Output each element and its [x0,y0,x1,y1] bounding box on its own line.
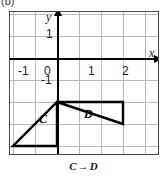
arrow-icon: → [77,160,90,172]
shapes-layer [10,12,159,155]
triangle-c [13,102,57,146]
caption-to: D [90,160,98,172]
caption: C→D [0,160,167,172]
part-label: (b) [1,0,14,7]
shape-label-d: D [84,108,93,120]
coordinate-grid: y x 1 -1 -1 0 1 2 C D [9,11,159,155]
caption-from: C [69,160,76,172]
shape-label-c: C [39,113,47,125]
